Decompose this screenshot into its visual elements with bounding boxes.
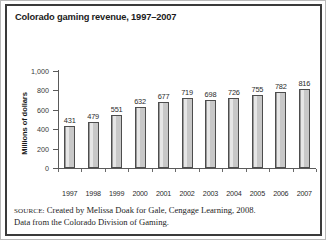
x-axis-tick <box>58 169 59 172</box>
bar <box>182 98 193 168</box>
y-axis-tick <box>53 71 58 72</box>
bar <box>64 126 75 168</box>
x-axis-tick-label: 2007 <box>290 189 318 198</box>
source-note-line2: Data from the Colorado Division of Gamin… <box>14 217 169 227</box>
x-axis-tick <box>293 169 294 172</box>
figure-container: Colorado gaming revenue, 1997–2007 Milli… <box>0 0 326 240</box>
y-axis-tick-label: 400 <box>37 125 49 134</box>
y-axis-tick-label: 800 <box>37 86 49 95</box>
x-axis-tick <box>269 169 270 172</box>
y-axis-tick <box>53 149 58 150</box>
bar-value-label: 816 <box>290 79 318 88</box>
source-note: SOURCE: Created by Melissa Doak for Gale… <box>14 205 314 229</box>
bar <box>252 95 263 168</box>
bar-value-label: 551 <box>103 105 131 114</box>
y-axis-tick-label: 200 <box>37 145 49 154</box>
source-note-label: SOURCE: <box>14 207 45 215</box>
bar <box>158 102 169 168</box>
y-axis-tick <box>53 110 58 111</box>
y-axis-tick <box>53 129 58 130</box>
x-axis-tick <box>222 169 223 172</box>
x-axis-tick <box>152 169 153 172</box>
x-axis-tick <box>246 169 247 172</box>
x-axis-tick <box>316 169 317 172</box>
x-axis-line <box>58 168 316 169</box>
y-axis-tick <box>53 90 58 91</box>
y-axis-title: Millions of dollars <box>20 74 29 174</box>
x-axis-tick <box>199 169 200 172</box>
bar <box>299 89 310 168</box>
x-axis-tick <box>105 169 106 172</box>
bar <box>228 98 239 168</box>
y-axis-tick-label: 0 <box>45 164 49 173</box>
bar <box>205 100 216 168</box>
y-axis-tick-label: 1,000 <box>31 67 49 76</box>
x-axis-tick <box>175 169 176 172</box>
bar <box>135 107 146 168</box>
bar <box>88 122 99 168</box>
bar <box>275 92 286 168</box>
y-axis-tick-label: 600 <box>37 106 49 115</box>
x-axis-tick <box>81 169 82 172</box>
x-axis-tick <box>128 169 129 172</box>
source-note-line1: Created by Melissa Doak for Gale, Cengag… <box>45 205 256 215</box>
bar <box>111 115 122 168</box>
